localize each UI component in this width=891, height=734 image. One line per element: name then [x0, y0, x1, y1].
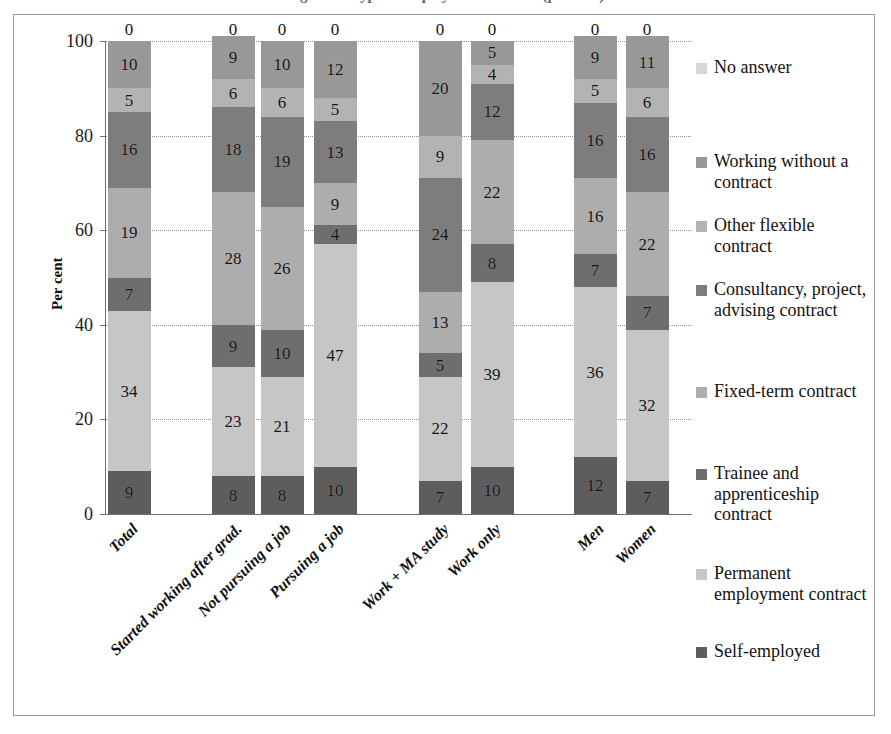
- bar-column[interactable]: 103982212450: [471, 41, 514, 514]
- bar-segment[interactable]: 21: [261, 377, 304, 476]
- bar-segment[interactable]: 19: [108, 188, 151, 278]
- bar-segment[interactable]: 9: [419, 136, 462, 179]
- bar-segment[interactable]: 16: [574, 178, 617, 254]
- bar-segment[interactable]: 39: [471, 282, 514, 466]
- bar-segment[interactable]: 10: [261, 41, 304, 88]
- bar-segment[interactable]: 13: [419, 292, 462, 353]
- legend-item[interactable]: Permanent employment contract: [696, 563, 876, 604]
- bar-segment[interactable]: 7: [108, 278, 151, 311]
- bar-segment[interactable]: 9: [212, 36, 255, 79]
- bar-segment-value: 39: [484, 366, 501, 383]
- bar-segment[interactable]: 4: [314, 225, 357, 244]
- bar-segment-value: 21: [274, 418, 291, 435]
- bar-segment[interactable]: 4: [471, 65, 514, 84]
- bar-segment[interactable]: 8: [471, 244, 514, 282]
- bar-segment[interactable]: 22: [471, 140, 514, 244]
- bar-segment[interactable]: 10: [261, 330, 304, 377]
- bar-segment[interactable]: 12: [471, 84, 514, 141]
- legend-item[interactable]: Consultancy, project, advising contract: [696, 279, 876, 320]
- bar-column[interactable]: 732722166110: [626, 41, 669, 514]
- y-tick-mark: [100, 419, 106, 420]
- bar-segment[interactable]: 22: [626, 192, 669, 296]
- bar-segment[interactable]: 12: [314, 41, 357, 98]
- bar-segment[interactable]: 24: [419, 178, 462, 292]
- bar-segment-value: 47: [327, 347, 344, 364]
- y-tick-label: 100: [66, 31, 93, 52]
- bar-segment-value: 7: [643, 489, 652, 506]
- bar-total-label: 0: [574, 20, 617, 40]
- bar-segment[interactable]: 7: [419, 481, 462, 514]
- bar-segment[interactable]: 5: [108, 88, 151, 112]
- legend-item[interactable]: Other flexible contract: [696, 215, 876, 256]
- bar-segment[interactable]: 16: [626, 117, 669, 193]
- bar-segment[interactable]: 9: [314, 183, 357, 226]
- bar-segment[interactable]: 18: [212, 107, 255, 192]
- bar-segment[interactable]: 7: [626, 481, 669, 514]
- bar-segment[interactable]: 6: [626, 88, 669, 116]
- bar-segment[interactable]: 5: [471, 41, 514, 65]
- legend-swatch-icon: [696, 221, 707, 232]
- bar-segment-value: 16: [121, 141, 138, 158]
- legend-item[interactable]: No answer: [696, 57, 876, 78]
- bar-segment[interactable]: 5: [419, 353, 462, 377]
- bar-segment[interactable]: 9: [574, 36, 617, 79]
- legend-swatch-icon: [696, 469, 707, 480]
- bar-segment[interactable]: 5: [574, 79, 617, 103]
- bar-segment[interactable]: 7: [626, 296, 669, 329]
- legend-item[interactable]: Working without a contract: [696, 151, 876, 192]
- bar-total-label: 0: [212, 20, 255, 40]
- bar-segment[interactable]: 6: [261, 88, 304, 116]
- bar-segment[interactable]: 36: [574, 287, 617, 457]
- bar-segment[interactable]: 8: [261, 476, 304, 514]
- bar-segment[interactable]: 16: [574, 103, 617, 179]
- bar-segment-value: 5: [591, 82, 600, 99]
- bar-segment[interactable]: 26: [261, 207, 304, 330]
- bar-segment[interactable]: 13: [314, 121, 357, 182]
- bar-segment[interactable]: 34: [108, 311, 151, 472]
- bar-segment-value: 7: [591, 262, 600, 279]
- bar-segment[interactable]: 23: [212, 367, 255, 476]
- bar-segment[interactable]: 28: [212, 192, 255, 324]
- bar-segment-value: 34: [121, 383, 138, 400]
- bar-segment[interactable]: 12: [574, 457, 617, 514]
- bar-column[interactable]: 722513249200: [419, 41, 462, 514]
- bar-total-label: 0: [108, 20, 151, 40]
- bar-segment[interactable]: 7: [574, 254, 617, 287]
- legend-item[interactable]: Self-employed: [696, 641, 876, 662]
- bar-segment[interactable]: 11: [626, 36, 669, 88]
- bar-column[interactable]: 104749135120: [314, 41, 357, 514]
- bar-segment-value: 23: [225, 413, 242, 430]
- bar-segment[interactable]: 10: [314, 467, 357, 514]
- bar-segment[interactable]: 9: [108, 471, 151, 514]
- y-tick-mark: [100, 41, 106, 42]
- bar-column[interactable]: 8211026196100: [261, 41, 304, 514]
- bar-segment[interactable]: 10: [108, 41, 151, 88]
- legend-swatch-icon: [696, 285, 707, 296]
- legend-swatch-icon: [696, 157, 707, 168]
- bar-segment[interactable]: 16: [108, 112, 151, 188]
- bar-segment-value: 5: [125, 92, 134, 109]
- bar-column[interactable]: 123671616590: [574, 41, 617, 514]
- chart-title-strip: Figure — Type of employment contract (pe…: [0, 0, 891, 12]
- bar-segment-value: 10: [274, 345, 291, 362]
- bar-segment[interactable]: 20: [419, 41, 462, 136]
- bar-column[interactable]: 82392818690: [212, 41, 255, 514]
- legend-item[interactable]: Fixed-term contract: [696, 381, 876, 402]
- bar-segment[interactable]: 8: [212, 476, 255, 514]
- legend-item[interactable]: Trainee and apprenticeship contract: [696, 463, 876, 525]
- bar-segment-value: 10: [484, 482, 501, 499]
- bar-segment[interactable]: 32: [626, 330, 669, 481]
- bar-segment-value: 12: [587, 477, 604, 494]
- x-tick-label: Men: [574, 520, 608, 554]
- bar-segment[interactable]: 6: [212, 79, 255, 107]
- x-tick-label-text: Not pursuing a job: [194, 520, 294, 620]
- bar-segment[interactable]: 10: [471, 467, 514, 514]
- bar-segment[interactable]: 22: [419, 377, 462, 481]
- bar-segment[interactable]: 5: [314, 98, 357, 122]
- bar-segment[interactable]: 19: [261, 117, 304, 207]
- legend-label: Other flexible contract: [714, 215, 876, 256]
- bar-segment[interactable]: 47: [314, 244, 357, 466]
- bar-segment[interactable]: 9: [212, 325, 255, 368]
- bar-column[interactable]: 934719165100: [108, 41, 151, 514]
- bar-total-label: 0: [419, 20, 462, 40]
